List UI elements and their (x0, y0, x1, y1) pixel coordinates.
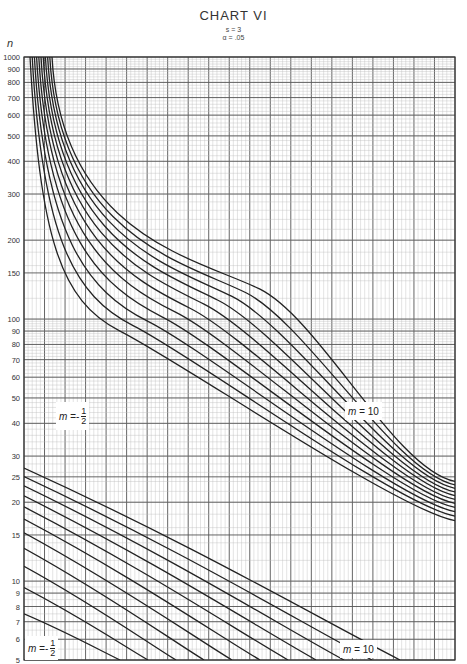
frac-den: 2 (50, 649, 55, 658)
m-prefix: m = (28, 643, 45, 654)
annotation-upper-m-10: m = 10 (345, 402, 382, 420)
m-prefix: m = (348, 406, 365, 417)
m-sign: - (45, 643, 48, 654)
plot-area (0, 0, 467, 664)
m-prefix: m = (343, 644, 360, 655)
m-value: 10 (363, 644, 374, 655)
m-value: 10 (368, 406, 379, 417)
frac-num: 1 (50, 639, 55, 649)
annotation-upper-m-neg-half: m =- 12 (56, 402, 89, 430)
annotation-lower-m-neg-half: m =- 12 (25, 636, 58, 660)
frac-num: 1 (81, 407, 86, 417)
fraction-one-half: 12 (81, 407, 86, 426)
fraction-one-half: 12 (50, 639, 55, 658)
m-sign: - (76, 411, 79, 422)
annotation-lower-m-10: m = 10 (340, 640, 377, 658)
frac-den: 2 (81, 417, 86, 426)
m-prefix: m = (59, 411, 76, 422)
